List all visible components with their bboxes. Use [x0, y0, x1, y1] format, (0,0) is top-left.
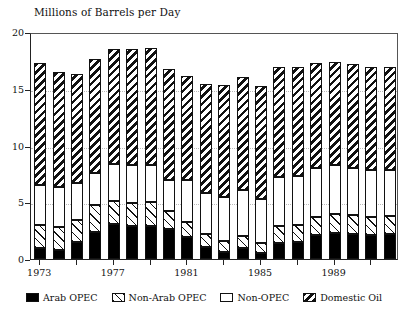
bar-1977	[108, 32, 120, 259]
bar-segment-non-opec-1978	[126, 165, 138, 204]
y-axis-tick-label: 20	[0, 28, 24, 38]
bar-segment-domestic-oil-1983	[218, 85, 230, 196]
bar-segment-domestic-oil-1973	[34, 63, 46, 186]
bar-segment-non-opec-1986	[273, 177, 285, 226]
legend-label: Non-OPEC	[237, 292, 289, 303]
bar-1975	[71, 32, 83, 259]
bar-segment-domestic-oil-1991	[365, 67, 377, 170]
bar-1974	[53, 32, 65, 259]
legend-item-domestic-oil[interactable]: Domestic Oil	[303, 292, 382, 303]
bar-segment-non-arab-opec-1977	[108, 201, 120, 224]
y-axis-tick-mark	[25, 260, 30, 261]
bar-segment-non-opec-1988	[310, 168, 322, 217]
bar-1990	[347, 32, 359, 259]
legend-item-non-opec[interactable]: Non-OPEC	[220, 292, 289, 303]
x-axis-tick-mark	[186, 260, 187, 265]
bar-1987	[292, 32, 304, 259]
bar-segment-domestic-oil-1977	[108, 49, 120, 164]
bar-segment-arab-opec-1974	[53, 250, 65, 259]
bar-segment-non-opec-1992	[384, 170, 396, 215]
bar-segment-arab-opec-1982	[200, 247, 212, 259]
y-axis-tick-label: 0	[0, 255, 24, 265]
bar-group	[31, 34, 397, 259]
x-axis-tick-label: 1989	[314, 268, 354, 278]
bar-1973	[34, 32, 46, 259]
bar-1981	[181, 32, 193, 259]
legend-label: Non-Arab OPEC	[129, 292, 207, 303]
x-axis-tick-mark	[39, 260, 40, 265]
bar-segment-arab-opec-1978	[126, 226, 138, 259]
bar-1983	[218, 32, 230, 259]
x-axis-tick-label: 1985	[240, 268, 280, 278]
bar-segment-arab-opec-1991	[365, 235, 377, 259]
bar-segment-arab-opec-1976	[89, 232, 101, 259]
bar-segment-arab-opec-1975	[71, 242, 83, 259]
x-axis-tick-mark	[370, 260, 371, 265]
x-axis-tick-label: 1977	[93, 268, 133, 278]
x-axis-tick-label: 1973	[19, 268, 59, 278]
bar-segment-non-opec-1985	[255, 199, 267, 243]
chart-figure: Millions of Barrels per Day 05101520 197…	[0, 0, 404, 316]
bar-segment-non-arab-opec-1985	[255, 243, 267, 253]
bar-segment-non-opec-1979	[145, 165, 157, 202]
bar-segment-arab-opec-1979	[145, 226, 157, 259]
bar-segment-domestic-oil-1981	[181, 76, 193, 179]
bar-segment-domestic-oil-1984	[237, 77, 249, 189]
bar-segment-non-opec-1975	[71, 183, 83, 220]
x-axis-tick-mark	[150, 260, 151, 265]
bar-segment-non-opec-1980	[163, 180, 175, 212]
bar-segment-arab-opec-1988	[310, 235, 322, 259]
bar-segment-non-opec-1976	[89, 173, 101, 205]
bar-segment-domestic-oil-1990	[347, 64, 359, 168]
bar-segment-domestic-oil-1980	[163, 69, 175, 179]
x-axis-tick-mark	[113, 260, 114, 265]
bar-segment-domestic-oil-1978	[126, 49, 138, 165]
bar-1985	[255, 32, 267, 259]
bar-1984	[237, 32, 249, 259]
bar-segment-non-opec-1991	[365, 170, 377, 217]
bar-segment-non-opec-1982	[200, 193, 212, 234]
y-axis-tick-mark	[25, 90, 30, 91]
bar-segment-arab-opec-1980	[163, 229, 175, 259]
y-axis-tick-mark	[25, 33, 30, 34]
legend-swatch-icon	[26, 293, 39, 302]
y-axis-tick-mark	[25, 147, 30, 148]
bar-segment-domestic-oil-1992	[384, 67, 396, 170]
bar-segment-domestic-oil-1976	[89, 59, 101, 173]
y-axis-tick-mark	[25, 203, 30, 204]
bar-segment-arab-opec-1984	[237, 248, 249, 259]
legend-label: Domestic Oil	[320, 292, 382, 303]
legend-swatch-icon	[112, 293, 125, 302]
bar-segment-arab-opec-1985	[255, 253, 267, 259]
bar-segment-domestic-oil-1988	[310, 63, 322, 169]
bar-segment-arab-opec-1987	[292, 242, 304, 259]
bar-segment-non-arab-opec-1979	[145, 202, 157, 226]
legend-swatch-icon	[303, 293, 316, 302]
bar-segment-non-arab-opec-1975	[71, 220, 83, 242]
bar-segment-non-arab-opec-1973	[34, 225, 46, 248]
bar-segment-non-opec-1981	[181, 180, 193, 222]
bar-segment-non-arab-opec-1976	[89, 205, 101, 232]
legend-item-arab-opec[interactable]: Arab OPEC	[26, 292, 98, 303]
bar-segment-arab-opec-1986	[273, 243, 285, 259]
bar-segment-arab-opec-1983	[218, 252, 230, 259]
bar-segment-non-arab-opec-1990	[347, 215, 359, 234]
bar-segment-domestic-oil-1985	[255, 86, 267, 198]
y-axis-tick-label: 15	[0, 85, 24, 95]
bar-segment-non-arab-opec-1986	[273, 226, 285, 243]
bar-segment-arab-opec-1990	[347, 234, 359, 259]
bar-segment-domestic-oil-1975	[71, 74, 83, 183]
bar-1980	[163, 32, 175, 259]
bar-segment-arab-opec-1989	[329, 233, 341, 259]
plot-area	[30, 33, 398, 260]
bar-segment-arab-opec-1977	[108, 224, 120, 259]
bar-segment-non-arab-opec-1992	[384, 216, 396, 234]
bar-1982	[200, 32, 212, 259]
x-axis-tick-mark	[297, 260, 298, 265]
bar-segment-non-arab-opec-1989	[329, 214, 341, 233]
chart-title: Millions of Barrels per Day	[34, 6, 180, 18]
legend-item-non-arab-opec[interactable]: Non-Arab OPEC	[112, 292, 207, 303]
bar-segment-non-opec-1987	[292, 176, 304, 225]
bar-segment-domestic-oil-1982	[200, 84, 212, 193]
bar-segment-non-arab-opec-1987	[292, 225, 304, 242]
